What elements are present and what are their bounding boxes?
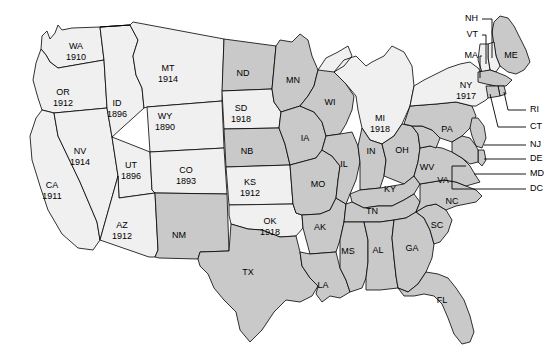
year-WY: 1890 <box>155 122 175 132</box>
year-OK: 1918 <box>260 227 280 237</box>
year-SD: 1918 <box>231 114 251 124</box>
label-ME: ME <box>504 50 518 60</box>
state-DE-shape[interactable] <box>478 150 486 166</box>
leader-CT <box>490 94 526 127</box>
label-WI: WI <box>325 97 336 107</box>
label-IA: IA <box>301 133 310 143</box>
label-NV: NV <box>74 146 87 156</box>
callout-label-RI: RI <box>530 104 539 114</box>
label-AZ: AZ <box>116 220 128 230</box>
leader-RI <box>504 92 526 110</box>
label-KY: KY <box>384 184 396 194</box>
state-NB[interactable] <box>224 128 290 167</box>
label-NC: NC <box>446 196 459 206</box>
callout-label-VT: VT <box>466 29 478 39</box>
year-NV: 1914 <box>70 157 90 167</box>
callout-label-CT: CT <box>530 121 542 131</box>
state-NM[interactable] <box>155 193 229 259</box>
label-AL: AL <box>372 245 383 255</box>
callout-label-NH: NH <box>465 13 478 23</box>
label-ID: ID <box>113 98 123 108</box>
label-NY: NY <box>460 80 473 90</box>
year-NY: 1917 <box>456 91 476 101</box>
label-UT: UT <box>125 160 137 170</box>
label-GA: GA <box>405 243 418 253</box>
label-KS: KS <box>244 177 256 187</box>
year-ID: 1896 <box>107 109 127 119</box>
label-TN: TN <box>366 206 378 216</box>
label-NM: NM <box>172 230 186 240</box>
year-CO: 1893 <box>176 176 196 186</box>
label-SD: SD <box>235 103 248 113</box>
label-FL: FL <box>437 295 448 305</box>
label-WY: WY <box>158 111 173 121</box>
label-OK: OK <box>263 216 276 226</box>
label-WA: WA <box>69 41 83 51</box>
year-CA: 1911 <box>42 191 61 201</box>
label-MS: MS <box>341 246 355 256</box>
label-IN: IN <box>367 146 376 156</box>
label-ND: ND <box>237 68 250 78</box>
label-NB: NB <box>241 146 254 156</box>
callout-label-DE: DE <box>530 153 543 163</box>
label-AK: AK <box>314 222 326 232</box>
year-UT: 1896 <box>121 171 141 181</box>
label-MO: MO <box>311 179 326 189</box>
label-MN: MN <box>286 75 300 85</box>
callout-label-MA: MA <box>465 50 479 60</box>
label-CO: CO <box>179 165 193 175</box>
label-MI: MI <box>375 113 385 123</box>
state-MA-shape[interactable] <box>478 70 512 86</box>
year-MT: 1914 <box>158 74 178 84</box>
year-WA: 1910 <box>66 52 86 62</box>
state-ND[interactable] <box>222 39 276 91</box>
callout-label-MD: MD <box>530 168 544 178</box>
year-OR: 1912 <box>53 98 73 108</box>
label-CA: CA <box>46 180 59 190</box>
callout-label-DC: DC <box>530 183 543 193</box>
label-OH: OH <box>395 145 409 155</box>
state-CT-shape[interactable] <box>486 86 500 98</box>
label-VA: VA <box>437 175 448 185</box>
label-IL: IL <box>340 159 348 169</box>
year-AZ: 1912 <box>112 231 132 241</box>
year-MI: 1918 <box>370 124 390 134</box>
year-KS: 1912 <box>240 188 260 198</box>
callout-label-NJ: NJ <box>530 139 541 149</box>
label-MT: MT <box>162 63 175 73</box>
label-SC: SC <box>431 220 444 230</box>
us-map-svg: WA 1910 OR 1912 CA 1911 NV 1914 ID 1896 … <box>0 0 553 359</box>
label-OR: OR <box>56 87 70 97</box>
us-suffrage-map: WA 1910 OR 1912 CA 1911 NV 1914 ID 1896 … <box>0 0 553 359</box>
state-KS[interactable] <box>226 165 293 205</box>
label-PA: PA <box>441 124 452 134</box>
label-TX: TX <box>242 267 254 277</box>
label-LA: LA <box>317 280 328 290</box>
label-WV: WV <box>420 162 435 172</box>
